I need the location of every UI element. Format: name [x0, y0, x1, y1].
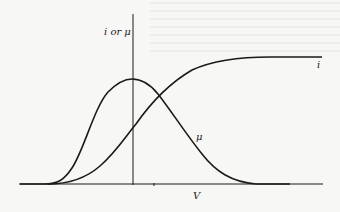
i-curve	[48, 57, 322, 184]
current-mobility-diagram: i or μ i μ V	[0, 0, 340, 212]
y-axis-label: i or μ	[104, 27, 131, 37]
mu-curve-label: μ	[196, 132, 203, 142]
i-curve-label: i	[317, 60, 320, 70]
x-axis-label: V	[193, 191, 200, 201]
diagram-canvas	[0, 0, 340, 212]
mu-curve	[20, 79, 290, 184]
